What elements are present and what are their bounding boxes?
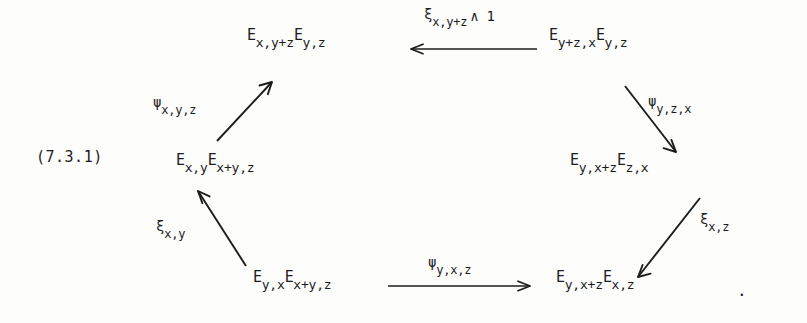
node-bottom-right-first-base: E: [556, 268, 565, 286]
node-top-left-first-base: E: [247, 26, 256, 44]
arrow-label-upper-left-sub: x,y,z: [161, 103, 196, 117]
node-bottom-left: Ey,xEx+y,z: [253, 272, 332, 290]
arrow-label-bottom: ψy,x,z: [428, 258, 471, 274]
arrow-label-bottom-glyph: ψ: [428, 254, 436, 270]
node-top-left-second-sub: y,z: [303, 35, 326, 50]
trailing-period: .: [737, 281, 747, 300]
arrow-label-upper-left-diagonal: ψx,y,z: [153, 98, 196, 114]
node-middle-left: Ex,yEx+y,z: [176, 155, 255, 173]
arrow-top-horizontal: [411, 44, 537, 54]
node-top-right: Ey+z,xEy,z: [549, 30, 628, 48]
node-bottom-left-first-sub: y,x: [262, 277, 285, 292]
arrow-label-bottom-sub: y,x,z: [436, 263, 471, 277]
node-top-left-second-base: E: [294, 26, 303, 44]
node-bottom-right-second-base: E: [603, 268, 612, 286]
arrow-label-top: ξx,y+z∧ 1: [424, 10, 495, 26]
arrow-upper-left-diagonal: [217, 82, 272, 141]
node-top-left: Ex,y+zEy,z: [247, 30, 326, 48]
node-top-left-first-sub: x,y+z: [256, 35, 294, 50]
node-middle-right-second-sub: z,x: [626, 160, 649, 175]
arrow-label-upper-right-glyph: ψ: [648, 93, 656, 109]
arrow-label-upper-left-glyph: ψ: [153, 94, 161, 110]
arrow-label-lower-left-glyph: ξ: [156, 218, 164, 234]
node-bottom-left-first-base: E: [253, 268, 262, 286]
node-bottom-right: Ey,x+zEx,z: [556, 272, 635, 290]
node-middle-left-first-base: E: [176, 151, 185, 169]
arrow-label-lower-left-sub: x,y: [164, 227, 185, 241]
node-middle-left-second-sub: x+y,z: [216, 160, 254, 175]
node-middle-right-second-base: E: [617, 151, 626, 169]
arrow-label-lower-right-glyph: ξ: [700, 211, 708, 227]
node-bottom-right-second-sub: x,z: [612, 277, 635, 292]
node-top-right-second-base: E: [596, 26, 605, 44]
arrow-bottom-horizontal: [388, 281, 530, 291]
arrow-label-top-extra: ∧ 1: [467, 8, 494, 24]
arrow-label-upper-right-sub: y,z,x: [656, 102, 691, 116]
arrow-label-lower-right-diagonal: ξx,z: [700, 215, 729, 231]
arrow-label-top-glyph: ξ: [424, 6, 432, 22]
equation-number: (7.3.1): [36, 148, 103, 166]
node-top-right-second-sub: y,z: [605, 35, 628, 50]
node-top-right-first-sub: y+z,x: [558, 35, 596, 50]
node-bottom-right-first-sub: y,x+z: [565, 277, 603, 292]
arrow-label-lower-right-sub: x,z: [708, 220, 729, 234]
arrow-label-upper-right-diagonal: ψy,z,x: [648, 97, 691, 113]
node-middle-left-first-sub: x,y: [185, 160, 208, 175]
node-middle-right-first-sub: y,x+z: [579, 160, 617, 175]
arrow-layer: [0, 0, 807, 323]
figure-canvas: (7.3.1) Ex,y+zEy,z Ey+z,xEy,z Ex,yEx+y,z…: [0, 0, 807, 323]
arrow-label-top-sub: x,y+z: [432, 15, 467, 29]
node-top-right-first-base: E: [549, 26, 558, 44]
node-middle-right-first-base: E: [570, 151, 579, 169]
node-middle-right: Ey,x+zEz,x: [570, 155, 649, 173]
arrow-lower-left-diagonal: [198, 191, 246, 266]
arrow-lower-right-diagonal: [638, 198, 700, 277]
arrow-label-lower-left-diagonal: ξx,y: [156, 222, 185, 238]
node-bottom-left-second-sub: x+y,z: [293, 277, 331, 292]
